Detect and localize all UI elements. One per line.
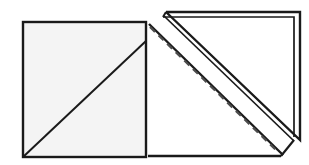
flipped-bottom-right-notch: [281, 140, 294, 156]
figure-canvas: [0, 0, 309, 165]
square-group: [23, 22, 146, 157]
flipped-triangle-group: [148, 12, 300, 156]
square-outline: [23, 22, 146, 157]
geometry-figure: Square with shaded half-triangle reflect…: [0, 0, 309, 165]
